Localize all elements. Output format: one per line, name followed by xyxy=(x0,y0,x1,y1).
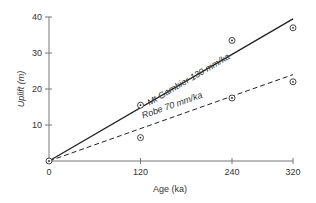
y-axis-title: Uplift (m) xyxy=(16,71,26,108)
y-tick-label: 40 xyxy=(32,12,42,22)
circled-dot-marker xyxy=(229,95,235,101)
circled-dot-marker xyxy=(138,102,144,108)
x-tick-label: 320 xyxy=(285,167,300,177)
circled-dot-marker xyxy=(290,25,296,31)
x-tick-label: 240 xyxy=(224,167,239,177)
y-tick-label: 20 xyxy=(32,84,42,94)
circled-dot-marker xyxy=(229,37,235,43)
x-tick-label: 120 xyxy=(133,167,148,177)
x-axis-title: Age (ka) xyxy=(153,184,187,194)
circled-dot-marker xyxy=(290,79,296,85)
labels: Mt Gambier 130 mm/kaRobe 70 mm/ka xyxy=(140,51,231,120)
y-tick-label: 10 xyxy=(32,120,42,130)
circled-dot-marker xyxy=(46,158,52,164)
y-tick-label: 30 xyxy=(32,48,42,58)
uplift-chart: 102030400120240320Age (ka)Uplift (m) Mt … xyxy=(0,0,316,203)
x-tick-label: 0 xyxy=(46,167,51,177)
circled-dot-marker xyxy=(138,135,144,141)
